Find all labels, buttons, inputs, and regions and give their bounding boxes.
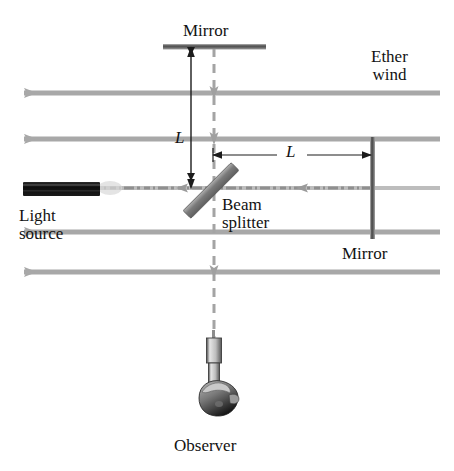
right-mirror: [370, 137, 375, 239]
figure-canvas: Mirror Ether wind L L Light source Beam …: [0, 0, 454, 471]
label-length-vertical: L: [175, 129, 184, 147]
light-source-body: [23, 182, 100, 196]
label-beam-splitter: Beam splitter: [222, 196, 269, 232]
label-ether-wind-line2: wind: [371, 66, 408, 84]
label-light-source: Light source: [19, 207, 63, 243]
label-ether-wind: Ether wind: [371, 48, 408, 84]
observer-head: [199, 381, 239, 416]
label-mirror-right: Mirror: [342, 245, 387, 263]
label-length-horizontal: L: [286, 143, 295, 161]
label-mirror-top: Mirror: [183, 22, 228, 40]
label-beam-splitter-line2: splitter: [222, 214, 269, 232]
label-beam-splitter-line1: Beam: [222, 196, 269, 214]
label-light-source-line1: Light: [19, 207, 63, 225]
dimension-vertical-L: [187, 47, 195, 190]
label-light-source-line2: source: [19, 225, 63, 243]
horizontal-light-beam: [98, 181, 372, 195]
label-observer: Observer: [174, 437, 236, 455]
top-mirror: [163, 44, 266, 50]
label-ether-wind-line1: Ether: [371, 48, 408, 66]
beam-glow: [98, 181, 122, 195]
